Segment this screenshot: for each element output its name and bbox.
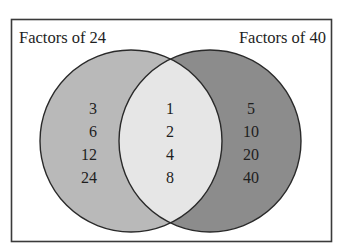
set-label-factors-of-24: Factors of 24 bbox=[19, 28, 106, 47]
set-value: 5 bbox=[247, 100, 255, 117]
venn-diagram: Factors of 24 Factors of 40 3 6 12 24 1 … bbox=[0, 0, 349, 249]
set-value: 20 bbox=[243, 146, 259, 163]
set-value: 12 bbox=[81, 146, 97, 163]
intersection-value: 8 bbox=[166, 169, 174, 186]
set-value: 24 bbox=[81, 169, 97, 186]
intersection-value: 1 bbox=[166, 100, 174, 117]
set-value: 40 bbox=[243, 169, 259, 186]
set-label-factors-of-40: Factors of 40 bbox=[239, 28, 326, 47]
intersection-value: 2 bbox=[166, 123, 174, 140]
intersection-value: 4 bbox=[166, 146, 174, 163]
set-value: 6 bbox=[89, 123, 97, 140]
set-value: 3 bbox=[89, 100, 97, 117]
set-value: 10 bbox=[243, 123, 259, 140]
